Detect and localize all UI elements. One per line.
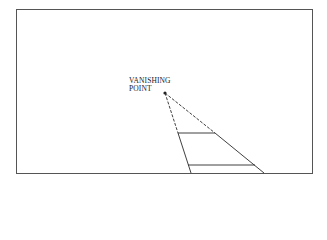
label-line-2: POINT <box>129 85 171 93</box>
left-dashed-line <box>165 93 178 133</box>
right-edge-line <box>215 133 264 173</box>
left-edge-line <box>178 133 191 173</box>
right-dashed-line <box>165 93 215 133</box>
vanishing-point-label: VANISHING POINT <box>129 77 171 93</box>
